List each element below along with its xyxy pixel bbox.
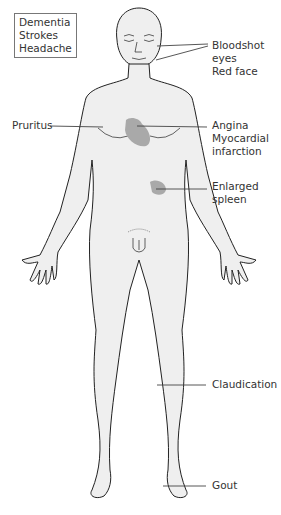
label-claudication: Claudication	[212, 378, 277, 391]
label-angina: Angina Myocardial infarction	[212, 119, 269, 158]
label-red-face: Red face	[212, 65, 258, 78]
box-line: Strokes	[19, 29, 72, 42]
box-line: Dementia	[19, 16, 72, 29]
label-gout: Gout	[212, 479, 237, 492]
symptom-box: Dementia Strokes Headache	[14, 13, 77, 58]
head	[117, 8, 162, 67]
label-bloodshot-eyes: Bloodshot eyes	[212, 39, 264, 65]
label-enlarged-spleen: Enlarged spleen	[212, 180, 259, 206]
box-line: Headache	[19, 42, 72, 55]
label-pruritus: Pruritus	[12, 119, 53, 132]
